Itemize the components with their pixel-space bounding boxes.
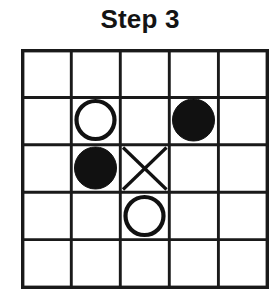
cell-r2c5[interactable] [219,98,267,145]
cell-r1c4[interactable] [170,51,218,98]
cell-r2c3[interactable] [121,98,169,145]
cell-r1c1[interactable] [23,51,71,98]
grid-board[interactable] [21,49,269,289]
page-title: Step 3 [0,4,280,34]
white-stone-r2c2[interactable] [77,101,115,139]
cell-r3c4[interactable] [170,145,218,192]
cell-r4c1[interactable] [23,193,71,239]
step-diagram: Step 3 [0,0,280,303]
cell-r5c1[interactable] [23,240,71,287]
white-stone-r4c3[interactable] [126,197,164,235]
cell-r1c5[interactable] [219,51,267,98]
cell-r1c2[interactable] [72,51,120,98]
black-stone-r3c2[interactable] [75,147,117,189]
cell-r2c1[interactable] [23,98,71,145]
cell-r3c5[interactable] [219,145,267,192]
cell-r5c3[interactable] [121,240,169,287]
cell-r5c5[interactable] [219,240,267,287]
cell-r5c4[interactable] [170,240,218,287]
cell-r3c1[interactable] [23,145,71,192]
cell-r5c2[interactable] [72,240,120,287]
cell-r4c2[interactable] [72,193,120,239]
cell-r4c5[interactable] [219,193,267,239]
cell-r1c3[interactable] [121,51,169,98]
cell-r4c4[interactable] [170,193,218,239]
board-state-readout: [["empty","empty","empty","empty","empty… [0,0,1,1]
grid-board-svg[interactable] [21,49,269,289]
black-stone-r2c4[interactable] [173,99,215,141]
